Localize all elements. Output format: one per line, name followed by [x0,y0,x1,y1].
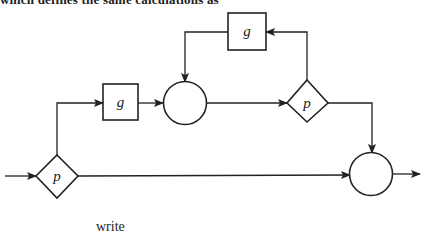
junction-node-c1 [164,82,207,125]
edge-p1-c2 [78,175,350,176]
p1-label: p [52,168,61,184]
flow-diagram: p g p g [0,0,427,239]
junction-node-c2 [350,153,393,196]
edge-p1-g1 [57,103,103,155]
g1-label: g [117,94,125,110]
edge-p2-c2 [328,103,372,153]
p2-label: p [302,95,311,111]
edge-g2-c1 [185,32,228,82]
footer-text: write [96,219,125,235]
edge-p2-g2 [266,32,307,80]
g2-label: g [243,23,251,39]
